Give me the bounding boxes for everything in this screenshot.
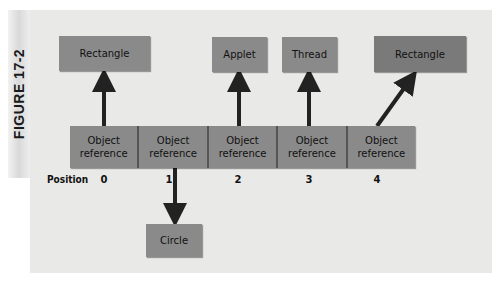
target-box-rectangle-2: Rectangle bbox=[374, 36, 466, 72]
cell-text: Object bbox=[226, 134, 259, 147]
array-cell-4: Object reference bbox=[348, 126, 415, 168]
cell-text: Object bbox=[365, 134, 398, 147]
cell-text: Object bbox=[296, 134, 329, 147]
target-box-thread: Thread bbox=[282, 37, 337, 72]
cell-text: reference bbox=[149, 147, 197, 160]
position-index: 4 bbox=[374, 174, 381, 185]
target-box-rectangle-1: Rectangle bbox=[59, 36, 150, 71]
cell-text: reference bbox=[288, 147, 336, 160]
array-cell-0: Object reference bbox=[70, 126, 139, 168]
target-label: Applet bbox=[223, 49, 255, 60]
position-index: 1 bbox=[166, 174, 173, 185]
cell-text: reference bbox=[219, 147, 267, 160]
array-cell-2: Object reference bbox=[209, 126, 278, 168]
position-label: Position bbox=[47, 174, 88, 185]
cell-text: reference bbox=[357, 147, 405, 160]
array-cell-3: Object reference bbox=[278, 126, 347, 168]
target-label: Rectangle bbox=[80, 48, 130, 59]
target-box-circle: Circle bbox=[146, 224, 202, 257]
cell-text: Object bbox=[87, 134, 120, 147]
cell-text: Object bbox=[157, 134, 190, 147]
target-label: Rectangle bbox=[395, 49, 445, 60]
position-index: 3 bbox=[306, 174, 313, 185]
object-reference-array: Object reference Object reference Object… bbox=[70, 126, 415, 168]
arrow-4-to-rectangle bbox=[377, 80, 410, 126]
cell-text: reference bbox=[80, 147, 128, 160]
array-cell-1: Object reference bbox=[139, 126, 208, 168]
target-box-applet: Applet bbox=[212, 37, 267, 72]
target-label: Thread bbox=[292, 49, 327, 60]
position-index: 2 bbox=[235, 174, 242, 185]
target-label: Circle bbox=[160, 235, 188, 246]
position-index: 0 bbox=[101, 174, 108, 185]
